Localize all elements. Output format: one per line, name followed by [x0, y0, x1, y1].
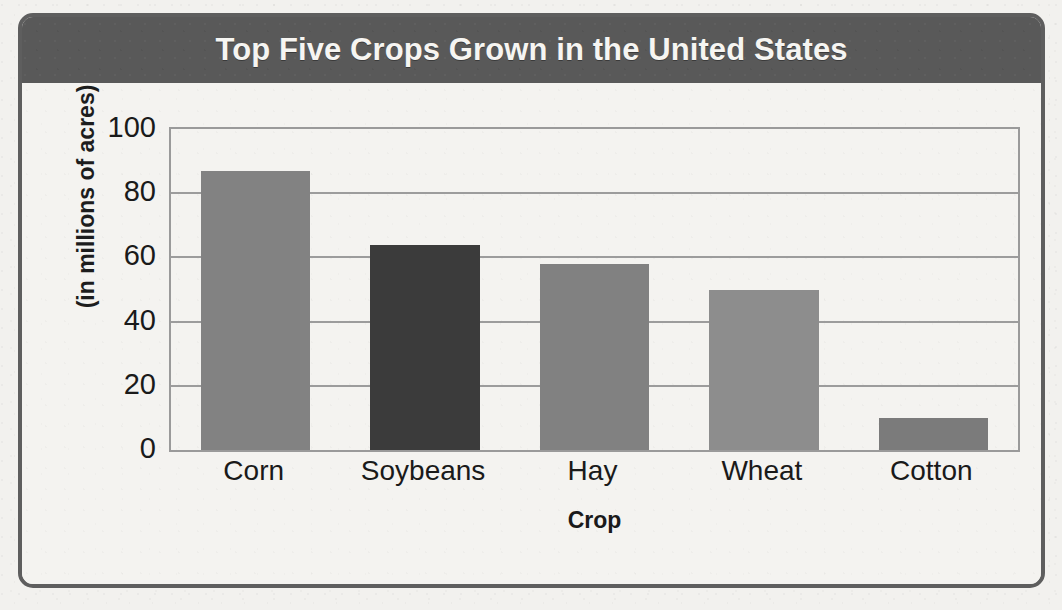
y-axis-tick-labels: 020406080100: [84, 83, 156, 584]
chart-page: Top Five Crops Grown in the United State…: [0, 0, 1062, 610]
y-tick-label: 20: [84, 369, 156, 398]
plot-area: [169, 127, 1020, 452]
x-tick-label-corn: Corn: [169, 455, 338, 487]
bar-series: [171, 129, 1018, 450]
chart-card: Top Five Crops Grown in the United State…: [18, 13, 1045, 588]
y-tick-label: 60: [84, 241, 156, 270]
x-tick-label-cotton: Cotton: [847, 455, 1016, 487]
bar-wheat: [709, 290, 818, 451]
chart-plot-region: (in millions of acres) 020406080100 Corn…: [22, 83, 1041, 584]
x-tick-label-soybeans: Soybeans: [338, 455, 507, 487]
x-tick-label-wheat: Wheat: [677, 455, 846, 487]
x-axis-label: Crop: [169, 507, 1020, 534]
y-tick-label: 80: [84, 177, 156, 206]
x-axis-tick-labels: CornSoybeansHayWheatCotton: [169, 455, 1020, 499]
chart-title-bar: Top Five Crops Grown in the United State…: [22, 17, 1041, 83]
y-tick-label: 0: [84, 434, 156, 463]
page-title: Top Five Crops Grown in the United State…: [215, 32, 847, 68]
bar-soybeans: [370, 245, 479, 450]
y-tick-label: 100: [84, 113, 156, 142]
y-tick-label: 40: [84, 305, 156, 334]
bar-cotton: [879, 418, 988, 450]
bar-corn: [201, 171, 310, 450]
x-tick-label-hay: Hay: [508, 455, 677, 487]
bar-hay: [540, 264, 649, 450]
